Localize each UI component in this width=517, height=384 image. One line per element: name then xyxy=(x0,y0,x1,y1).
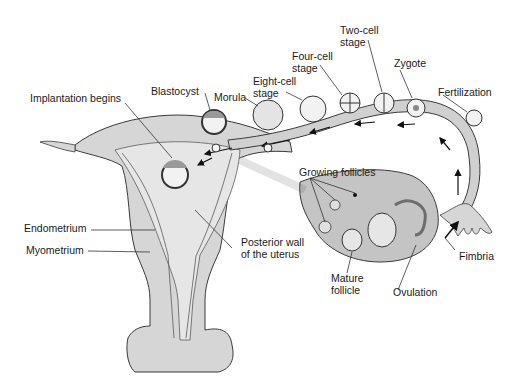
label-ovulation: Ovulation xyxy=(393,286,437,298)
label-endometrium: Endometrium xyxy=(24,222,86,234)
label-myometrium: Myometrium xyxy=(26,244,84,256)
anatomy-illustration xyxy=(0,0,517,384)
label-four-cell-stage: Four-cell stage xyxy=(292,50,333,74)
label-growing-follicles: Growing follicles xyxy=(299,166,375,178)
label-fertilization: Fertilization xyxy=(438,86,492,98)
label-eight-cell-stage: Eight-cell stage xyxy=(253,75,296,99)
label-zygote: Zygote xyxy=(394,57,426,69)
reproductive-tract-diagram: Implantation begins Blastocyst Morula Ei… xyxy=(0,0,517,384)
label-fimbria: Fimbria xyxy=(459,250,494,262)
label-implantation-begins: Implantation begins xyxy=(30,92,121,104)
label-blastocyst: Blastocyst xyxy=(151,85,199,97)
label-mature-follicle: Mature follicle xyxy=(331,272,364,296)
label-posterior-wall: Posterior wall of the uterus xyxy=(241,236,304,260)
label-morula: Morula xyxy=(214,91,246,103)
label-two-cell-stage: Two-cell stage xyxy=(340,24,379,48)
